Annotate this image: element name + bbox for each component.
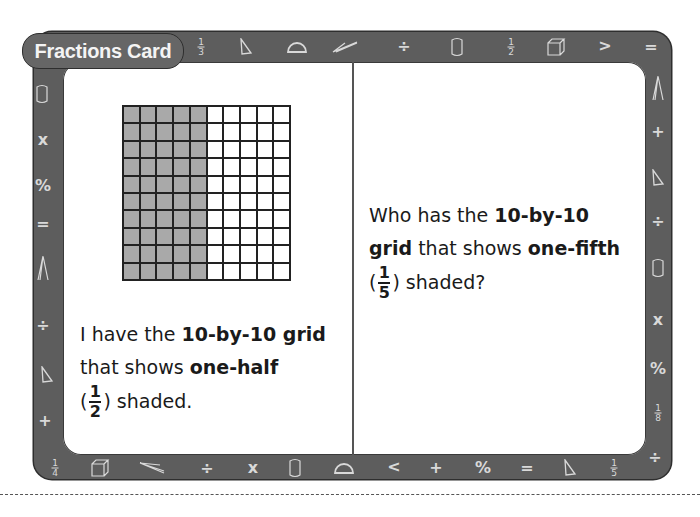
compass-icon: [331, 40, 359, 54]
grid-cell: [156, 210, 173, 227]
grid-cell: [123, 228, 140, 245]
card-divider: [352, 62, 354, 455]
grid-cell: [190, 176, 207, 193]
grid-cell: [140, 106, 157, 123]
grid-cell: [140, 193, 157, 210]
grid-cell: [156, 176, 173, 193]
grid-cell: [207, 193, 224, 210]
grid-cell: [240, 141, 257, 158]
grid-cell: [156, 158, 173, 175]
fraction-one-half-icon: 12: [508, 38, 515, 57]
grid-cell: [240, 106, 257, 123]
grid-cell: [257, 141, 274, 158]
grid-cell: [123, 176, 140, 193]
grid-cell: [257, 123, 274, 140]
grid-cell: [123, 123, 140, 140]
grid-cell: [173, 106, 190, 123]
grid-cell: [123, 141, 140, 158]
times-icon: x: [38, 132, 48, 148]
cylinder-icon: [288, 458, 302, 478]
grid-cell: [207, 176, 224, 193]
grid-cell: [273, 210, 290, 227]
grid-cell: [156, 245, 173, 262]
grid-cell: [156, 106, 173, 123]
equals-icon: =: [520, 460, 533, 476]
grid-cell: [240, 245, 257, 262]
cylinder-icon: [450, 37, 464, 57]
right-line-1: Who has the 10-by-10: [369, 199, 644, 232]
grid-cell: [223, 176, 240, 193]
grid-cell: [190, 158, 207, 175]
right-card-text: Who has the 10-by-10 grid that shows one…: [369, 199, 644, 301]
compass-icon: [652, 75, 664, 101]
grid-cell: [140, 228, 157, 245]
grid-cell: [273, 228, 290, 245]
percent-icon: %: [475, 460, 491, 476]
fraction-one-third-icon: 13: [198, 38, 205, 57]
grid-cell: [123, 158, 140, 175]
grid-cell: [273, 123, 290, 140]
grid-cell: [240, 263, 257, 280]
card-title: Fractions Card: [22, 33, 184, 69]
grid-cell: [223, 193, 240, 210]
grid-cell: [173, 176, 190, 193]
grid-cell: [257, 193, 274, 210]
right-line-3: (15) shaded?: [369, 265, 644, 301]
grid-cell: [257, 228, 274, 245]
grid-cell: [190, 263, 207, 280]
grid-cell: [207, 245, 224, 262]
grid-cell: [190, 123, 207, 140]
grid-cell: [257, 158, 274, 175]
grid-cell: [156, 263, 173, 280]
grid-cell: [223, 158, 240, 175]
grid-cell: [207, 158, 224, 175]
grid-cell: [190, 193, 207, 210]
grid-cell: [190, 106, 207, 123]
grid-cell: [240, 193, 257, 210]
left-card-text: I have the 10-by-10 grid that shows one-…: [80, 318, 340, 420]
triangle-icon: [239, 38, 253, 56]
grid-cell: [273, 263, 290, 280]
compass-icon: [37, 255, 49, 281]
grid-cell: [273, 141, 290, 158]
triangle-icon: [651, 169, 665, 187]
grid-cell: [257, 245, 274, 262]
grid-cell: [140, 245, 157, 262]
triangle-icon: [40, 366, 54, 384]
fraction-one-eighth-icon: 18: [655, 404, 662, 423]
left-line-2: that shows one-half: [80, 351, 340, 384]
grid-cell: [140, 141, 157, 158]
grid-cell: [240, 123, 257, 140]
grid-cell: [190, 245, 207, 262]
cube-icon: [546, 37, 566, 57]
grid-cell: [123, 193, 140, 210]
protractor-icon: [333, 461, 355, 475]
grid-cell: [173, 193, 190, 210]
grid-cell: [240, 228, 257, 245]
divide-icon: ÷: [397, 39, 410, 55]
grid-cell: [240, 158, 257, 175]
grid-cell: [223, 210, 240, 227]
grid-cell: [140, 176, 157, 193]
grid-cell: [223, 123, 240, 140]
grid-cell: [173, 228, 190, 245]
grid-cell: [223, 106, 240, 123]
equals-icon: =: [644, 39, 657, 55]
equals-icon: =: [36, 216, 49, 232]
greater-than-icon: >: [598, 38, 611, 54]
grid-cell: [240, 176, 257, 193]
times-icon: x: [653, 312, 663, 328]
divide-icon: ÷: [648, 450, 661, 466]
fraction-one-fifth: 15: [378, 265, 390, 301]
grid-cell: [257, 106, 274, 123]
grid-cell: [257, 176, 274, 193]
compass-icon: [138, 461, 166, 475]
left-line-3: (12) shaded.: [80, 384, 340, 420]
grid-cell: [173, 141, 190, 158]
grid-cell: [207, 106, 224, 123]
card-body: I have the 10-by-10 grid that shows one-…: [63, 62, 646, 455]
grid-cell: [207, 123, 224, 140]
divide-icon: ÷: [651, 214, 664, 230]
grid-cell: [273, 245, 290, 262]
grid-cell: [173, 123, 190, 140]
